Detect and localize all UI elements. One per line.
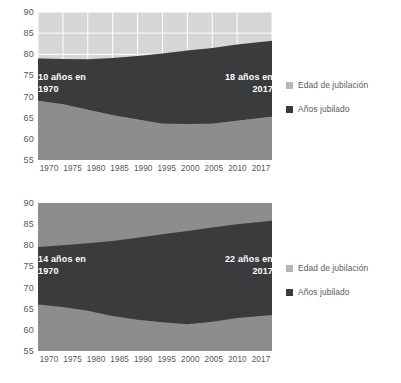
annotation-right-1: 18 años en 2017 [225, 72, 273, 95]
y-axis-tick-label: 70 [14, 283, 34, 292]
x-axis-tick-label: 1980 [87, 164, 106, 174]
legend-label-edad: Edad de jubilación [298, 80, 368, 90]
x-axis-tick-label: 2000 [181, 355, 200, 365]
y-axis-tick-label: 70 [14, 92, 34, 101]
legend-item-edad-de-jubilacion-2[interactable]: Edad de jubilación [286, 263, 398, 273]
annotation-left-2: 14 años en 1970 [38, 254, 86, 277]
x-axis-tick-label: 2005 [205, 164, 224, 174]
x-axis-1: 1970197519801985199019952000200520102017 [36, 164, 274, 178]
area-chart-svg-2 [38, 203, 272, 351]
legend-swatch-icon-anos [286, 106, 293, 113]
y-axis-tick-label: 65 [14, 113, 34, 122]
y-axis-tick-label: 80 [14, 241, 34, 250]
legend-swatch-icon-edad [286, 82, 293, 89]
y-axis-tick-label: 60 [14, 325, 34, 334]
y-axis-tick-label: 55 [14, 347, 34, 356]
y-axis-tick-label: 75 [14, 71, 34, 80]
y-axis-tick-label: 60 [14, 134, 34, 143]
y-axis-tick-label: 80 [14, 50, 34, 59]
legend-item-anos-jubilado-2[interactable]: Años jubilado [286, 287, 398, 297]
x-axis-tick-label: 1990 [134, 164, 153, 174]
legend-2: Edad de jubilación Años jubilado [286, 263, 398, 311]
x-axis-tick-label: 1980 [87, 355, 106, 365]
legend-item-edad-de-jubilacion[interactable]: Edad de jubilación [286, 80, 398, 90]
plot-wrapper-2: 9085807570656055 19701975198019851990199… [14, 203, 276, 353]
legend-label-anos-2: Años jubilado [298, 287, 350, 297]
y-axis-1: 9085807570656055 [14, 12, 34, 160]
chart-panel-1: 9085807570656055 19701975198019851990199… [0, 0, 401, 192]
x-axis-tick-label: 1985 [110, 164, 129, 174]
y-axis-tick-label: 90 [14, 199, 34, 208]
legend-swatch-icon-edad-2 [286, 265, 293, 272]
x-axis-2: 1970197519801985199019952000200520102017 [36, 355, 274, 369]
y-axis-tick-label: 85 [14, 29, 34, 38]
y-axis-tick-label: 65 [14, 304, 34, 313]
x-axis-tick-label: 2017 [252, 355, 271, 365]
y-axis-tick-label: 75 [14, 262, 34, 271]
x-axis-tick-label: 1995 [157, 355, 176, 365]
legend-label-edad-2: Edad de jubilación [298, 263, 368, 273]
y-axis-2: 9085807570656055 [14, 203, 34, 351]
x-axis-tick-label: 2017 [252, 164, 271, 174]
legend-label-anos: Años jubilado [298, 104, 350, 114]
x-axis-tick-label: 2010 [228, 355, 247, 365]
legend-1: Edad de jubilación Años jubilado [286, 80, 398, 128]
x-axis-tick-label: 1990 [134, 355, 153, 365]
x-axis-tick-label: 1975 [63, 164, 82, 174]
x-axis-tick-label: 1995 [157, 164, 176, 174]
legend-swatch-icon-anos-2 [286, 289, 293, 296]
x-axis-tick-label: 1970 [40, 355, 59, 365]
annotation-left-1: 10 años en 1970 [38, 72, 86, 95]
y-axis-tick-label: 55 [14, 156, 34, 165]
x-axis-tick-label: 1970 [40, 164, 59, 174]
plot-area-2 [38, 203, 272, 351]
x-axis-tick-label: 2000 [181, 164, 200, 174]
x-axis-tick-label: 2010 [228, 164, 247, 174]
y-axis-tick-label: 90 [14, 8, 34, 17]
annotation-right-2: 22 años en 2017 [225, 254, 273, 277]
y-axis-tick-label: 85 [14, 220, 34, 229]
x-axis-tick-label: 1975 [63, 355, 82, 365]
chart-panel-2: 9085807570656055 19701975198019851990199… [0, 191, 401, 383]
x-axis-tick-label: 1985 [110, 355, 129, 365]
legend-item-anos-jubilado[interactable]: Años jubilado [286, 104, 398, 114]
x-axis-tick-label: 2005 [205, 355, 224, 365]
